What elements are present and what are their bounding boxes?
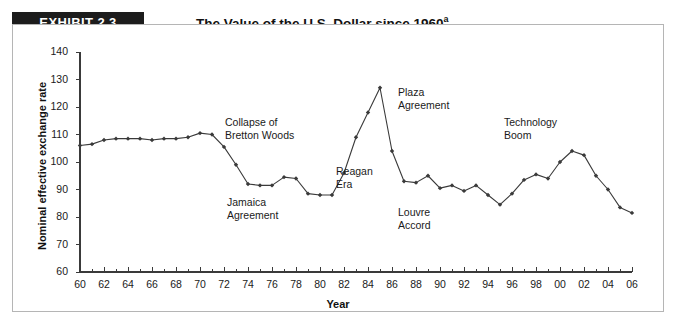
data-point-marker: 1965: 108.5 [138, 136, 142, 140]
data-point-marker: 2006: 81.5 [630, 211, 634, 215]
data-point-marker: 1960: 106 [78, 143, 82, 147]
annotation-bretton-woods: Collapse of Bretton Woods [225, 116, 294, 141]
x-axis-tick-label: 82 [333, 278, 355, 290]
x-axis-tick-label: 60 [69, 278, 91, 290]
data-point-marker: 1970: 110.5 [198, 131, 202, 135]
data-point-marker: 1961: 106.5 [90, 142, 94, 146]
data-point-marker: 1966: 108 [150, 138, 154, 142]
y-axis-tick-label: 100 [40, 155, 68, 167]
x-axis-tick-label: 62 [93, 278, 115, 290]
x-axis-tick-label: 90 [429, 278, 451, 290]
data-point-marker: 1964: 108.5 [126, 136, 130, 140]
x-axis-tick-label: 04 [597, 278, 619, 290]
x-axis-tick-label: 98 [525, 278, 547, 290]
series-nominal-effective-exchange-rate: 1960: 1061961: 106.51962: 1081963: 108.5… [78, 86, 634, 216]
data-point-marker: 1980: 88 [318, 193, 322, 197]
data-point-marker: 1967: 108.5 [162, 136, 166, 140]
data-point-marker: 1962: 108 [102, 138, 106, 142]
data-point-marker: 1998: 95.5 [534, 172, 538, 176]
y-axis-tick-label: 120 [40, 100, 68, 112]
chart-axes [76, 52, 632, 272]
data-point-marker: 2002: 102.5 [582, 153, 586, 157]
data-point-marker: 1991: 91.5 [450, 183, 454, 187]
annotation-reagan-era: Reagan Era [336, 165, 373, 190]
x-axis-title: Year [0, 298, 676, 310]
data-point-marker: 1963: 108.5 [114, 136, 118, 140]
y-axis-tick-label: 110 [40, 128, 68, 140]
data-point-marker: 1983: 109 [354, 135, 358, 139]
x-axis-tick-label: 80 [309, 278, 331, 290]
x-axis-tick-label: 66 [141, 278, 163, 290]
x-axis-tick-label: 74 [237, 278, 259, 290]
y-axis-tick-label: 70 [40, 238, 68, 250]
x-axis-tick-label: 70 [189, 278, 211, 290]
x-axis-tick-label: 88 [405, 278, 427, 290]
annotation-technology-boom: Technology Boom [504, 116, 557, 141]
annotation-louvre-accord: Louvre Accord [398, 206, 431, 231]
series-line [80, 88, 632, 213]
x-axis-tick-label: 68 [165, 278, 187, 290]
data-point-marker: 1968: 108.5 [174, 136, 178, 140]
x-axis-tick-label: 92 [453, 278, 475, 290]
data-point-marker: 1988: 92.5 [414, 180, 418, 184]
data-point-marker: 1987: 93 [402, 179, 406, 183]
annotation-plaza-agreement: Plaza Agreement [398, 86, 449, 111]
x-axis-tick-label: 76 [261, 278, 283, 290]
y-axis-tick-label: 80 [40, 210, 68, 222]
data-point-marker: 1969: 109 [186, 135, 190, 139]
data-point-marker: 1984: 118 [366, 110, 370, 114]
y-axis-tick-label: 140 [40, 45, 68, 57]
x-axis-tick-label: 02 [573, 278, 595, 290]
data-point-marker: 1986: 104 [390, 149, 394, 153]
x-axis-tick-label: 78 [285, 278, 307, 290]
x-axis-tick-label: 96 [501, 278, 523, 290]
x-axis-tick-label: 72 [213, 278, 235, 290]
data-point-marker: 1985: 127 [378, 86, 382, 90]
x-axis-tick-label: 84 [357, 278, 379, 290]
y-axis-tick-label: 130 [40, 73, 68, 85]
x-axis-tick-label: 86 [381, 278, 403, 290]
x-axis-tick-label: 64 [117, 278, 139, 290]
data-point-marker: 1975: 91.5 [258, 183, 262, 187]
y-axis-tick-label: 90 [40, 183, 68, 195]
annotation-jamaica-agreement: Jamaica Agreement [227, 196, 278, 221]
x-axis-tick-label: 94 [477, 278, 499, 290]
data-point-marker: 1981: 88 [330, 193, 334, 197]
x-axis-tick-label: 06 [621, 278, 643, 290]
y-axis-tick-label: 60 [40, 265, 68, 277]
x-axis-tick-label: 00 [549, 278, 571, 290]
data-point-marker: 1992: 89.5 [462, 189, 466, 193]
